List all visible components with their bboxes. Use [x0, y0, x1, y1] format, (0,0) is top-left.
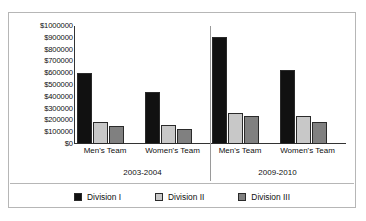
legend-label: Division III — [251, 192, 290, 202]
bar-group — [145, 26, 201, 144]
y-tick-label: $700000 — [44, 57, 73, 65]
bar-division-iii — [177, 129, 192, 144]
category-label: Women's Team — [272, 146, 344, 156]
y-tick-label: $900000 — [44, 34, 73, 42]
category-label: Women's Team — [137, 146, 209, 156]
bar-group — [212, 26, 268, 144]
bar-division-ii — [296, 116, 311, 144]
bar-division-i — [145, 92, 160, 144]
legend-label: Division II — [168, 192, 204, 202]
legend-swatch-icon — [74, 193, 82, 201]
legend-swatch-icon — [155, 193, 163, 201]
y-tick-label: $800000 — [44, 46, 73, 54]
legend-item: Division III — [238, 192, 290, 202]
y-tick-label: $100000 — [44, 128, 73, 136]
y-tick-label: $1000000 — [40, 22, 73, 30]
bar-division-i — [280, 70, 295, 144]
x-axis-group-labels: 2003-20042009-2010 — [75, 168, 346, 182]
bar-division-iii — [109, 126, 124, 144]
y-tick-label: $600000 — [44, 69, 73, 77]
legend-divider — [10, 183, 354, 184]
group-label: 2003-2004 — [75, 168, 210, 177]
bar-division-i — [77, 73, 92, 144]
category-label: Men's Team — [69, 146, 141, 156]
y-tick-label: $300000 — [44, 105, 73, 113]
chart-legend: Division IDivision IIDivision III — [9, 187, 355, 206]
chart-figure: $1000000$900000$800000$700000$600000$500… — [8, 12, 356, 208]
y-tick-label: $400000 — [44, 93, 73, 101]
y-axis-tick-labels: $1000000$900000$800000$700000$600000$500… — [11, 26, 73, 144]
y-tick-label: $200000 — [44, 116, 73, 124]
group-label: 2009-2010 — [210, 168, 345, 177]
category-label: Men's Team — [204, 146, 276, 156]
legend-item: Division II — [155, 192, 204, 202]
bar-division-iii — [312, 122, 327, 144]
legend-swatch-icon — [238, 193, 246, 201]
bar-division-i — [212, 37, 227, 144]
bar-division-ii — [161, 125, 176, 144]
legend-item: Division I — [74, 192, 121, 202]
x-axis-category-labels: Men's TeamWomen's TeamMen's TeamWomen's … — [75, 146, 346, 168]
legend-label: Division I — [87, 192, 121, 202]
plot-region: $1000000$900000$800000$700000$600000$500… — [9, 13, 355, 207]
bar-group — [77, 26, 133, 144]
bar-division-ii — [93, 122, 108, 144]
bar-group — [280, 26, 336, 144]
y-tick-label: $500000 — [44, 81, 73, 89]
bar-division-iii — [244, 116, 259, 144]
bar-division-ii — [228, 113, 243, 144]
